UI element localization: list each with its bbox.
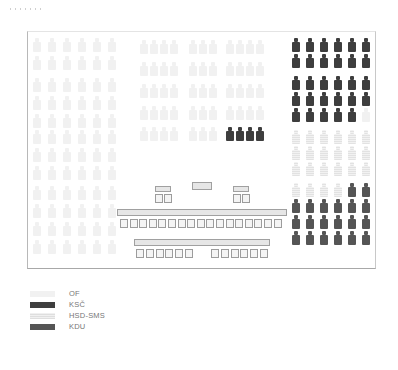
seat-body [63, 60, 71, 70]
seat-ksc [348, 76, 356, 90]
bench-chair [146, 249, 154, 258]
right-side-chair [242, 194, 250, 203]
seat-body [160, 88, 168, 98]
seat-body [33, 190, 41, 200]
seat-body [93, 60, 101, 70]
seat-body [348, 42, 356, 52]
seat-of [48, 186, 56, 200]
seat-of [236, 84, 244, 98]
seat-body [33, 208, 41, 218]
seat-of [33, 38, 41, 52]
seat-body [348, 58, 356, 68]
seat-body [246, 44, 254, 54]
legend-item-hsd-sms: HSD-SMS [30, 310, 105, 321]
seat-ksc [348, 92, 356, 106]
seat-of [150, 84, 158, 98]
seat-of [246, 106, 254, 120]
seat-body [320, 187, 328, 197]
seat-body [78, 170, 86, 180]
seat-body [348, 166, 356, 176]
seat-of [256, 106, 264, 120]
seat-body [292, 219, 300, 229]
seat-body [334, 112, 342, 122]
seat-body [292, 235, 300, 245]
seat-body [33, 60, 41, 70]
seat-of [93, 114, 101, 128]
seat-body [199, 88, 207, 98]
legend-item-ksc: KSČ [30, 299, 105, 310]
legend-swatch-hsd-sms [30, 313, 55, 319]
seat-body [189, 66, 197, 76]
seat-body [226, 131, 234, 141]
seat-body [48, 134, 56, 144]
seat-body [33, 118, 41, 128]
seat-of [48, 114, 56, 128]
government-bench-table [117, 209, 287, 216]
seat-of [108, 186, 116, 200]
seat-of [108, 78, 116, 92]
seat-kdu [306, 199, 314, 213]
bench-chair [231, 249, 239, 258]
seat-of [189, 62, 197, 76]
seat-of [78, 114, 86, 128]
seat-kdu [362, 231, 370, 245]
seat-body [150, 131, 158, 141]
seat-body [63, 152, 71, 162]
seat-body [306, 150, 314, 160]
seat-body [108, 134, 116, 144]
seat-body [348, 150, 356, 160]
seat-hsd [320, 162, 328, 176]
right-side-chair [233, 194, 241, 203]
decorative-dots [8, 8, 44, 10]
seat-of [189, 40, 197, 54]
seat-body [48, 208, 56, 218]
seat-body [256, 110, 264, 120]
seat-hsd [320, 183, 328, 197]
seat-of [170, 40, 178, 54]
seat-kdu [320, 199, 328, 213]
seat-of [63, 222, 71, 236]
seat-of [108, 56, 116, 70]
seat-body [306, 96, 314, 106]
seat-of [48, 166, 56, 180]
seat-of [48, 148, 56, 162]
bench-chair [221, 249, 229, 258]
seat-ksc [362, 54, 370, 68]
seat-of [33, 166, 41, 180]
seat-body [48, 170, 56, 180]
seat-body [63, 190, 71, 200]
seat-body [306, 80, 314, 90]
left-side-chair [164, 194, 172, 203]
seat-hsd [334, 146, 342, 160]
seat-body [334, 166, 342, 176]
seat-of [63, 38, 71, 52]
seat-body [236, 131, 244, 141]
seat-body [236, 66, 244, 76]
seat-of [199, 40, 207, 54]
seat-of [108, 148, 116, 162]
bench-chair [216, 219, 224, 228]
seat-body [334, 96, 342, 106]
seat-body [256, 131, 264, 141]
seat-of [199, 106, 207, 120]
seat-body [199, 131, 207, 141]
seat-body [93, 100, 101, 110]
seat-of [33, 78, 41, 92]
legend-item-kdu: KDU [30, 321, 105, 332]
seat-body [78, 152, 86, 162]
seat-body [320, 112, 328, 122]
seat-body [108, 100, 116, 110]
seat-of [160, 84, 168, 98]
rear-bench-table [134, 239, 270, 246]
seat-of [150, 127, 158, 141]
legend-label: HSD-SMS [69, 311, 105, 320]
seat-body [209, 66, 217, 76]
seat-ksc [292, 108, 300, 122]
seat-body [348, 80, 356, 90]
seat-body [362, 80, 370, 90]
seat-body [78, 60, 86, 70]
seat-kdu [362, 199, 370, 213]
seat-of [63, 130, 71, 144]
seat-of [150, 40, 158, 54]
bench-chair [120, 219, 128, 228]
